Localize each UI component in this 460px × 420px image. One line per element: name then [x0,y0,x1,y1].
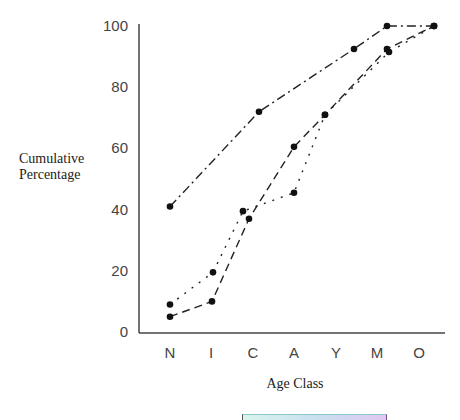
data-point-marker [386,49,393,56]
data-point-marker [384,23,391,30]
data-point-marker [291,189,298,196]
y-axis-title-line1: Cumulative [19,151,84,167]
x-tick-label: A [289,344,299,361]
data-point-marker [167,313,174,320]
data-point-marker [291,144,298,151]
data-point-marker [256,108,263,115]
y-axis-title-line2: Percentage [19,167,84,183]
y-tick-label: 60 [111,139,128,156]
y-tick-label: 80 [111,78,128,95]
data-point-marker [246,215,253,222]
data-point-marker [167,301,174,308]
x-tick-label: I [209,344,213,361]
x-tick-label: N [165,344,176,361]
y-tick-labels: 020406080100 [103,17,128,340]
y-tick-label: 100 [103,17,128,34]
y-axis-title: Cumulative Percentage [19,151,84,183]
data-point-marker [351,46,358,53]
y-tick-label: 40 [111,201,128,218]
data-point-marker [322,111,329,118]
data-point-marker [431,23,438,30]
x-tick-label: O [413,344,425,361]
x-tick-label: C [248,344,259,361]
y-tick-label: 0 [120,323,128,340]
data-point-marker [209,298,216,305]
x-tick-label: M [371,344,384,361]
y-tick-label: 20 [111,262,128,279]
x-tick-label: Y [331,344,341,361]
data-point-marker [167,203,174,210]
series-line [170,26,434,207]
x-axis-title: Age Class [0,376,460,392]
data-point-marker [210,269,217,276]
x-tick-labels: NICAYMO [165,344,425,361]
series-lines [167,23,438,320]
legend-box-edge [242,414,387,420]
data-point-marker [240,208,247,215]
